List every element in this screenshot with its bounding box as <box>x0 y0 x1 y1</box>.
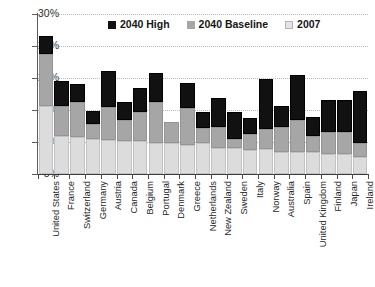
bar-segment-2007 <box>86 139 101 174</box>
bar-column <box>211 14 226 174</box>
x-axis-tick <box>321 174 322 179</box>
bar-column <box>243 14 258 174</box>
bar-column <box>164 14 179 174</box>
bar-segment-2007 <box>211 148 226 174</box>
bar-segment-2040-high <box>70 84 85 101</box>
bar-column <box>337 14 352 174</box>
bar-segment-2040-high <box>86 111 101 124</box>
bar-segment-2007 <box>337 154 352 174</box>
bar-segment-2040-baseline <box>211 127 226 149</box>
bar-segment-2040-high <box>353 91 368 142</box>
x-axis-tick <box>352 174 353 179</box>
bar-column <box>259 14 274 174</box>
bar-segment-2007 <box>101 140 116 174</box>
x-axis-line <box>37 174 368 175</box>
bar-segment-2007 <box>54 136 69 174</box>
bar-segment-2040-high <box>196 112 211 128</box>
x-axis-label: Australia <box>286 181 296 217</box>
bar-column <box>86 14 101 174</box>
x-axis-label: Denmark <box>176 181 186 219</box>
bar-segment-2040-baseline <box>39 54 54 106</box>
bar-segment-2040-baseline <box>259 129 274 149</box>
bar-column <box>290 14 305 174</box>
bar-column <box>321 14 336 174</box>
bar-column <box>353 14 368 174</box>
x-axis-tick <box>305 174 306 179</box>
bar-segment-2040-baseline <box>243 134 258 151</box>
x-axis-label: Switzerland <box>82 181 92 229</box>
bar-segment-2007 <box>321 154 336 174</box>
x-axis-tick <box>132 174 133 179</box>
x-axis-label: Sweden <box>239 181 249 215</box>
bar-column <box>180 14 195 174</box>
x-axis-tick <box>179 174 180 179</box>
bar-column <box>133 14 148 174</box>
bar-segment-2040-high <box>101 71 116 107</box>
x-axis-tick <box>274 174 275 179</box>
bar-segment-2040-baseline <box>306 136 321 153</box>
bar-segment-2040-high <box>149 73 164 102</box>
bar-segment-2007 <box>39 106 54 174</box>
bar-segment-2007 <box>180 145 195 174</box>
bar-segment-2040-baseline <box>321 132 336 154</box>
bar-segment-2007 <box>117 141 132 174</box>
bar-column <box>196 14 211 174</box>
x-axis-tick <box>117 174 118 179</box>
x-axis-label: Norway <box>271 181 281 213</box>
x-axis-tick <box>258 174 259 179</box>
bar-segment-2040-baseline <box>353 143 368 158</box>
bar-segment-2007 <box>259 149 274 174</box>
bar-segment-2007 <box>133 141 148 174</box>
bar-segment-2040-baseline <box>290 120 305 152</box>
x-axis-label: Portugal <box>161 181 171 216</box>
bar-segment-2040-baseline <box>227 139 242 147</box>
bar-segment-2040-high <box>39 36 54 54</box>
x-axis-label: United Kingdom <box>318 181 328 247</box>
bar-segment-2040-baseline <box>101 107 116 140</box>
x-axis-label: Belgium <box>145 181 155 215</box>
bar-segment-2007 <box>196 143 211 174</box>
x-axis-tick <box>148 174 149 179</box>
x-axis-label: Finland <box>333 181 343 212</box>
bar-segment-2040-high <box>211 98 226 127</box>
bar-segment-2040-baseline <box>133 112 148 141</box>
x-axis-tick <box>85 174 86 179</box>
x-axis-tick <box>69 174 70 179</box>
x-axis-tick <box>242 174 243 179</box>
bar-segment-2040-baseline <box>70 102 85 137</box>
x-axis-tick <box>211 174 212 179</box>
bar-segment-2040-baseline <box>180 108 195 144</box>
x-axis-label: New Zealand <box>223 181 233 236</box>
x-axis-tick <box>227 174 228 179</box>
bar-segment-2040-high <box>290 75 305 119</box>
bar-column <box>39 14 54 174</box>
bar-segment-2040-high <box>180 83 195 108</box>
bar-column <box>306 14 321 174</box>
bar-segment-2007 <box>353 157 368 174</box>
x-axis-label: Italy <box>255 181 265 198</box>
bar-column <box>274 14 289 174</box>
x-axis-tick <box>289 174 290 179</box>
bar-column <box>101 14 116 174</box>
bar-segment-2007 <box>290 152 305 174</box>
bar-segment-2040-high <box>117 102 132 119</box>
bar-segment-2040-baseline <box>274 127 289 152</box>
x-axis-label: Canada <box>129 181 139 214</box>
bar-column <box>227 14 242 174</box>
bar-segment-2007 <box>243 150 258 174</box>
bar-column <box>70 14 85 174</box>
bar-segment-2040-baseline <box>54 106 69 136</box>
bar-segment-2040-high <box>321 100 336 131</box>
bar-segment-2040-high <box>337 100 352 133</box>
bar-segment-2007 <box>70 137 85 174</box>
bar-segment-2040-baseline <box>337 132 352 154</box>
x-axis-tick <box>195 174 196 179</box>
bar-segment-2040-high <box>54 81 69 105</box>
chart-container: 2040 High 2040 Baseline 2007 30%25%20%15… <box>0 0 375 287</box>
bar-segment-2040-baseline <box>196 128 211 143</box>
bar-column <box>117 14 132 174</box>
x-axis-tick <box>368 174 369 179</box>
x-axis-label: Netherlands <box>208 181 218 231</box>
bar-segment-2040-high <box>227 112 242 140</box>
x-axis-label: Germany <box>98 181 108 219</box>
